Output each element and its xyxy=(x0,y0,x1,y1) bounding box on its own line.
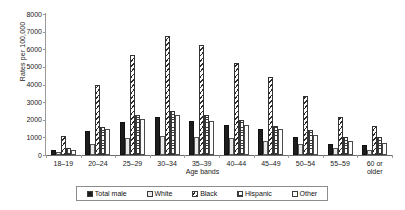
y-axis-tick-label: 8000 xyxy=(8,11,42,18)
bar-group xyxy=(293,14,318,155)
legend-swatch-icon xyxy=(147,191,153,197)
legend-swatch-icon xyxy=(292,191,298,197)
bar-group-bars xyxy=(85,14,110,155)
x-axis-tick-mark xyxy=(392,155,393,158)
x-axis-tick-mark xyxy=(323,155,324,158)
legend-item[interactable]: Hispanic xyxy=(227,190,282,198)
bar xyxy=(348,141,353,155)
plot-area xyxy=(46,14,392,155)
legend-swatch-icon xyxy=(87,191,93,197)
bar-group-bars xyxy=(155,14,180,155)
legend-item[interactable]: Black xyxy=(182,190,227,198)
bar-group-bars xyxy=(51,14,76,155)
bar-group xyxy=(362,14,387,155)
legend-item[interactable]: White xyxy=(137,190,183,198)
bar xyxy=(382,143,387,155)
x-axis-tick-mark xyxy=(254,155,255,158)
y-axis-tick-label: 3000 xyxy=(8,99,42,106)
x-axis-title: Age bands xyxy=(0,168,405,175)
y-axis-tick-label: 0 xyxy=(8,152,42,159)
y-axis-tick-label: 6000 xyxy=(8,46,42,53)
y-axis-tick-label: 4000 xyxy=(8,81,42,88)
bar-group xyxy=(258,14,283,155)
y-axis-tick-label: 1000 xyxy=(8,134,42,141)
bar-group xyxy=(51,14,76,155)
legend-label: Hispanic xyxy=(245,190,272,198)
x-axis-tick-mark xyxy=(115,155,116,158)
bar-group-bars xyxy=(258,14,283,155)
bar xyxy=(313,135,318,155)
chart-legend: Total maleWhiteBlackHispanicOther xyxy=(76,186,328,201)
x-axis-tick-mark xyxy=(184,155,185,158)
x-axis-tick-mark xyxy=(219,155,220,158)
y-axis-tick-label: 7000 xyxy=(8,28,42,35)
legend-swatch-icon xyxy=(192,191,198,197)
x-axis-tick-mark xyxy=(288,155,289,158)
bar xyxy=(209,121,214,155)
bar-group xyxy=(328,14,353,155)
x-axis-tick-mark xyxy=(357,155,358,158)
bar xyxy=(175,115,180,155)
y-axis-tick-label: 2000 xyxy=(8,116,42,123)
bar-group xyxy=(189,14,214,155)
bar-chart: Rates per 100,000 0100020003000400050006… xyxy=(0,0,405,210)
bar-group xyxy=(85,14,110,155)
legend-item[interactable]: Total male xyxy=(77,190,137,198)
bar xyxy=(71,150,76,155)
bar-group-bars xyxy=(224,14,249,155)
legend-swatch-icon xyxy=(237,191,243,197)
bar-group-bars xyxy=(293,14,318,155)
bar-group-bars xyxy=(189,14,214,155)
x-axis-tick-mark xyxy=(81,155,82,158)
bar xyxy=(244,125,249,155)
legend-label: White xyxy=(155,190,173,198)
bar xyxy=(105,129,110,155)
bar-group xyxy=(120,14,145,155)
legend-label: Other xyxy=(300,190,318,198)
legend-label: Black xyxy=(200,190,217,198)
legend-label: Total male xyxy=(95,190,127,198)
legend-item[interactable]: Other xyxy=(282,190,327,198)
bar xyxy=(140,119,145,155)
x-axis-tick-mark xyxy=(46,155,47,158)
bar-group-bars xyxy=(362,14,387,155)
x-axis-tick-mark xyxy=(150,155,151,158)
bar-group xyxy=(155,14,180,155)
bar-group-bars xyxy=(120,14,145,155)
bar-group-bars xyxy=(328,14,353,155)
bar-group xyxy=(224,14,249,155)
bar xyxy=(278,129,283,155)
y-axis-tick-label: 5000 xyxy=(8,63,42,70)
